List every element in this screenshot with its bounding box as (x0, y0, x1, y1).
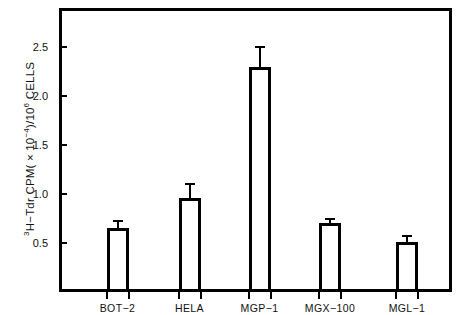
x-tick-mark (128, 292, 130, 299)
x-tick-mark (106, 292, 108, 299)
y-tick-label: 0.5 (18, 237, 48, 249)
y-tick-mark (59, 242, 67, 244)
x-tick-mark (395, 292, 397, 299)
bar (107, 228, 129, 292)
y-axis-label-exponent-1: −4 (22, 128, 31, 138)
error-bar-cap (255, 46, 265, 48)
x-tick-label: MGL−1 (389, 302, 426, 314)
y-axis-label-main: H−Tdr CPM( × 10 (24, 138, 36, 232)
error-bar-line (189, 183, 191, 198)
y-tick-label: 1.5 (18, 139, 48, 151)
y-tick-mark (59, 144, 67, 146)
error-bar-cap (185, 183, 195, 185)
bar (179, 198, 201, 292)
bar (396, 242, 418, 292)
figure-canvas: 3H−Tdr CPM( × 10−4)/106 CELLS 0.51.01.52… (0, 0, 469, 315)
y-tick-mark (59, 193, 67, 195)
y-tick-label: 2.0 (18, 90, 48, 102)
error-bar-line (259, 46, 261, 67)
y-axis-label-mid: )/10 (24, 107, 36, 128)
x-tick-label: BOT−2 (100, 302, 136, 314)
x-tick-mark (417, 292, 419, 299)
x-tick-mark (200, 292, 202, 299)
x-tick-mark (178, 292, 180, 299)
x-tick-mark (248, 292, 250, 299)
x-tick-mark (318, 292, 320, 299)
error-bar-cap (325, 218, 335, 220)
x-tick-label: MGP−1 (241, 302, 279, 314)
y-tick-label: 1.0 (18, 188, 48, 200)
y-tick-mark (59, 46, 67, 48)
error-bar-cap (402, 235, 412, 237)
y-tick-label: 2.5 (18, 41, 48, 53)
x-tick-label: HELA (175, 302, 204, 314)
bar (249, 67, 271, 292)
x-tick-label: MGX−100 (305, 302, 355, 314)
y-axis-label-exponent-2: 6 (22, 103, 31, 108)
error-bar-cap (113, 220, 123, 222)
y-axis-label-isotope: 3 (22, 231, 31, 236)
x-tick-mark (340, 292, 342, 299)
y-tick-mark (59, 95, 67, 97)
x-tick-mark (270, 292, 272, 299)
bar (319, 223, 341, 292)
